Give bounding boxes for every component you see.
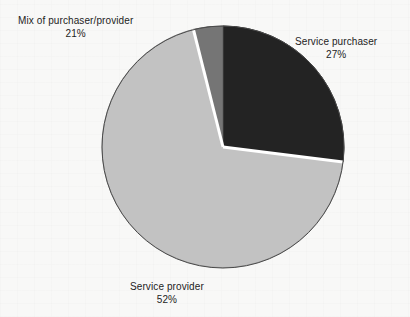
pie-label-mix-value: 21%	[18, 28, 133, 41]
pie-chart-figure: Mix of purchaser/provider 21% Service pu…	[0, 0, 410, 317]
pie-label-purchaser-value: 27%	[295, 49, 377, 62]
pie-label-provider-name: Service provider	[130, 281, 204, 292]
pie-label-service-provider: Service provider 52%	[130, 281, 204, 306]
pie-label-purchaser-name: Service purchaser	[295, 36, 377, 47]
pie-label-mix-name: Mix of purchaser/provider	[18, 15, 133, 26]
pie-label-provider-value: 52%	[130, 294, 204, 307]
pie-label-mix-purchaser-provider: Mix of purchaser/provider 21%	[18, 15, 133, 40]
pie-label-service-purchaser: Service purchaser 27%	[295, 36, 377, 61]
